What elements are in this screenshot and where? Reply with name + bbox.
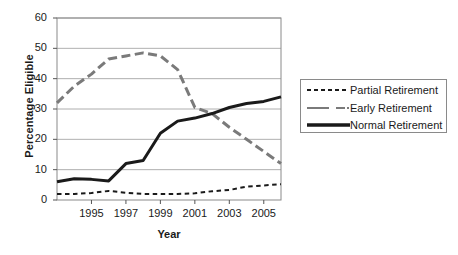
- legend-item-normal-retirement: Normal Retirement: [301, 116, 448, 134]
- legend-label-early-retirement: Early Retirement: [350, 102, 432, 114]
- legend-item-early-retirement: Early Retirement: [301, 99, 448, 117]
- legend-swatch-early-retirement: [306, 101, 350, 115]
- legend-label-partial-retirement: Partial Retirement: [350, 84, 438, 96]
- data-series-group: [57, 53, 281, 194]
- axis-tickmarks: [53, 18, 264, 204]
- legend-swatch-normal-retirement: [306, 118, 350, 132]
- legend-item-partial-retirement: Partial Retirement: [301, 81, 448, 99]
- legend-label-normal-retirement: Normal Retirement: [350, 119, 442, 131]
- series-line-partial-retirement: [57, 184, 281, 194]
- retirement-eligibility-line-chart: Percentage Eligible Year 0102030405060 1…: [0, 0, 458, 255]
- chart-legend: Partial Retirement Early Retirement Norm…: [300, 79, 447, 133]
- legend-swatch-partial-retirement: [306, 83, 350, 97]
- gridlines: [57, 18, 281, 170]
- series-line-early-retirement: [57, 53, 281, 164]
